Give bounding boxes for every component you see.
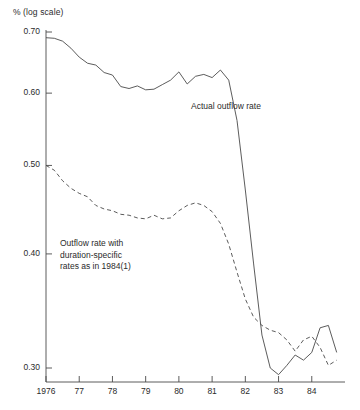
y-tick-label: 0.60 <box>6 87 40 97</box>
y-tick-label: 0.40 <box>6 248 40 258</box>
chart-figure: % (log scale) 0.700.600.500.400.30 19767… <box>0 0 360 410</box>
axes-group <box>46 30 345 382</box>
y-tick-label: 0.50 <box>6 159 40 169</box>
y-tick-label: 0.70 <box>6 26 40 36</box>
annotation-duration-specific-outflow-rate: Outflow rate with duration-specific rate… <box>60 238 131 273</box>
y-tick-label: 0.30 <box>6 362 40 372</box>
annotation-actual-outflow-rate: Actual outflow rate <box>191 101 261 113</box>
x-tick-marks <box>46 376 312 382</box>
y-tick-marks <box>46 32 52 368</box>
chart-plot-area <box>0 0 360 410</box>
x-tick-label: 84 <box>292 386 332 396</box>
series-line-actual-outflow-rate <box>46 38 337 375</box>
